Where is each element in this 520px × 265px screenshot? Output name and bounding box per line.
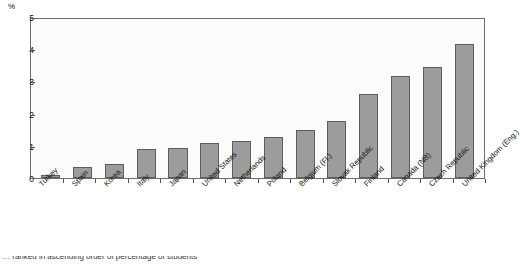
y-axis-tick-label: 2 [0, 110, 34, 120]
y-axis-unit-label: % [8, 2, 15, 11]
bar-slot [130, 19, 162, 178]
x-axis-labels: TurkeySpainKoreaItalyJapanUnited StatesN… [30, 182, 485, 252]
bar-slot [289, 19, 321, 178]
bar[interactable] [391, 76, 410, 178]
y-axis-tick-mark [30, 50, 35, 51]
bar-slot [67, 19, 99, 178]
bar-slot [99, 19, 131, 178]
y-axis-tick-label: 1 [0, 142, 34, 152]
bar[interactable] [359, 94, 378, 178]
bar-slot [194, 19, 226, 178]
figure-caption-text: … ranked in ascending order of percentag… [2, 256, 302, 261]
y-axis-tick-mark [30, 115, 35, 116]
y-axis-tick-mark [30, 82, 35, 83]
y-axis-tick-label: 5 [0, 13, 34, 23]
figure-caption: … ranked in ascending order of percentag… [2, 256, 302, 265]
y-axis-tick-label: 4 [0, 45, 34, 55]
bar-slot [385, 19, 417, 178]
y-axis-tick-label: 3 [0, 77, 34, 87]
bar-slot [162, 19, 194, 178]
x-axis-tick-mark [485, 179, 486, 183]
bar-slot [35, 19, 67, 178]
bar-series [31, 19, 484, 178]
y-axis-tick-mark [30, 147, 35, 148]
y-axis-tick-label: 0 [0, 174, 34, 184]
